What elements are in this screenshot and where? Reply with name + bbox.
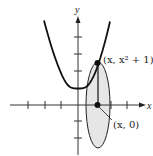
x-axis-label: x xyxy=(146,100,152,111)
point-top xyxy=(95,60,101,66)
x-axis: x xyxy=(10,100,152,111)
point-bottom-label: (x, 0) xyxy=(113,119,139,130)
y-axis-label: y xyxy=(74,4,80,15)
parabola-curve xyxy=(44,20,78,88)
y-axis: y xyxy=(74,4,82,155)
diagram-canvas: x y (x, x² + 1) (x, 0) xyxy=(0,0,153,156)
x-axis-arrow-icon xyxy=(139,103,146,108)
point-top-label: (x, x² + 1) xyxy=(103,54,153,65)
y-axis-arrow-icon xyxy=(76,16,81,23)
